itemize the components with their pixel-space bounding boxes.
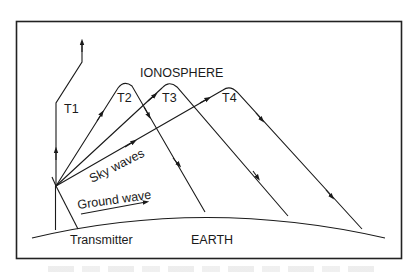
ray-t4-down-arrow (256, 113, 262, 120)
ray-t3-up-arrow (148, 95, 155, 101)
ray-t2-down-arrow (144, 107, 149, 116)
label-earth: EARTH (191, 233, 233, 247)
ground-wave-line (56, 186, 78, 229)
ray-t2-up-arrow (97, 113, 102, 121)
label-t3: T3 (162, 91, 177, 105)
label-transmitter: Transmitter (70, 233, 133, 247)
label-t1: T1 (64, 102, 79, 116)
label-t4: T4 (222, 91, 237, 105)
figure-frame (17, 22, 402, 259)
ray-t4-low-arrow (125, 142, 134, 148)
antenna-tick (52, 177, 56, 186)
wave-propagation-diagram: IONOSPHERE T1 T2 T3 T4 Sky waves Ground … (0, 0, 417, 277)
label-sky-waves: Sky waves (87, 146, 147, 186)
figure-caption-faded (48, 266, 378, 272)
ray-t4-down-arrow-2 (326, 190, 332, 197)
label-t2: T2 (117, 91, 132, 105)
label-ionosphere: IONOSPHERE (140, 66, 223, 80)
ray-t4-up-arrow (200, 99, 208, 104)
ray-t3-down-arrow (173, 158, 179, 165)
